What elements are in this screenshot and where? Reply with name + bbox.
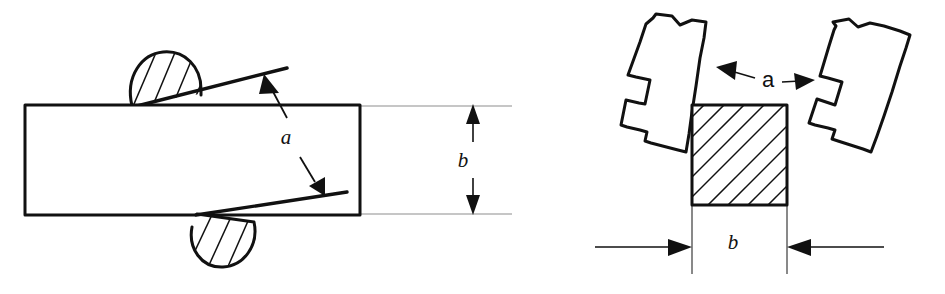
right-angle-label: a: [762, 67, 775, 92]
left-thickness-label: b: [458, 148, 469, 172]
technical-figure: a b: [0, 0, 945, 294]
diagram-canvas: a b: [0, 0, 945, 294]
left-angle-label: a: [281, 125, 292, 149]
right-width-dimension: b: [595, 230, 884, 256]
left-thickness-dimension: b: [458, 104, 480, 215]
right-gripper-jaw: [809, 19, 910, 152]
right-diagram-group: a b: [595, 14, 910, 274]
left-diagram-group: a b: [25, 48, 512, 282]
right-angle-dimension: a: [716, 61, 815, 92]
right-width-label: b: [728, 230, 739, 254]
hatched-specimen-square: [672, 85, 812, 229]
